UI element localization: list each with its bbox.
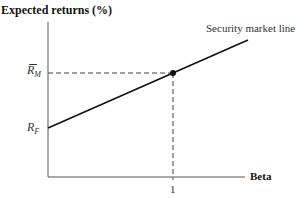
security-market-line [48, 40, 248, 128]
x-axis-label: Beta [250, 170, 271, 182]
sml-label: Security market line [206, 22, 295, 34]
x-tick-label-1: 1 [170, 183, 176, 195]
market-portfolio-point [170, 70, 176, 76]
chart-title: Expected returns (%) [1, 3, 112, 18]
rf-label: RF [27, 120, 39, 136]
rm-label: RM [27, 63, 41, 79]
rm-label-sub: M [34, 70, 41, 79]
rf-label-sub: F [34, 127, 39, 136]
